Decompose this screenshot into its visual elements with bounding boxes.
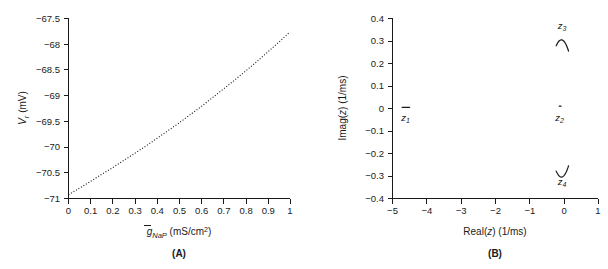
panel-a-y-ticklabel: −69 [44,90,60,101]
panel-b-y-ticklabel: 0 [379,103,384,114]
panel-b-x-ticklabel: −4 [421,205,432,216]
xb-title-prefix: Real( [463,226,488,237]
yb-title-prefix: Imag( [337,114,348,140]
branch-label-subscript: 1 [406,117,410,124]
eigenvalue-branch-z3 [556,40,568,51]
label-z3: z3 [557,20,567,33]
y-title-units: (mV) [17,91,28,113]
panel-b-x-ticklabels: −5 −4 −3 −2 −1 0 1 [387,205,601,216]
panel-a-x-ticks [69,199,291,204]
panel-b-y-ticklabel: 0.4 [371,13,384,24]
panel-a-y-ticklabel: −69.5 [36,116,60,127]
branch-label-subscript: 3 [562,25,566,32]
svg-text:Vr (mV): Vr (mV) [17,91,31,125]
panel-a-x-ticklabel: 0.9 [262,205,275,216]
panel-b-x-ticklabel: 1 [595,205,600,216]
panel-a-x-ticklabel: 0.6 [195,205,208,216]
panel-a-y-ticklabel: −68 [44,39,60,50]
panel-a-x-ticklabel: 0.3 [128,205,141,216]
xb-title-suffix: ) (1/ms) [492,226,526,237]
panel-a-x-ticklabel: 0.5 [173,205,186,216]
figure-container: −67.5 −68 −68.5 −69 −69.5 −70 −70.5 −71 [0,0,608,269]
panel-b-y-ticklabel: −0.2 [365,148,384,159]
panel-a-y-ticklabel: −68.5 [36,64,60,75]
panel-b-eigenvalue-loci [402,40,568,177]
panel-a-y-axis-title: Vr (mV) [17,91,31,125]
panel-b-y-ticklabel: −0.1 [365,125,384,136]
panel-a-y-ticklabel: −70 [44,141,60,152]
panel-b-y-ticklabel: −0.4 [365,193,384,204]
branch-label-subscript: 2 [559,117,564,124]
panel-a-x-ticklabel: 0.1 [84,205,97,216]
panel-b: 0.4 0.3 0.2 0.1 0 −0.1 −0.2 −0.3 −0.4 [304,0,608,269]
panel-b-x-ticklabel: −2 [490,205,501,216]
label-z4: z4 [557,176,567,189]
panel-b-y-ticks [388,19,393,199]
panel-b-y-ticklabels: 0.4 0.3 0.2 0.1 0 −0.1 −0.2 −0.3 −0.4 [365,13,384,204]
x-title-units: (mS/cm [170,226,204,237]
panel-b-x-ticklabel: −3 [456,205,467,216]
label-z2: z2 [554,112,564,125]
panel-b-x-ticklabel: 0 [562,205,567,216]
x-title-units-close: ) [208,226,211,237]
panel-a-x-ticklabel: 0.2 [106,205,119,216]
x-title-subscript: NaP [152,231,167,240]
panel-b-y-ticklabel: 0.3 [371,35,384,46]
panel-b-x-axis-title: Real(z) (1/ms) [463,226,526,237]
panel-a-x-ticklabels: 0 0.1 0.2 0.3 0.4 0.5 0.6 0.7 0.8 0.9 1 [66,205,293,216]
panel-a-y-ticklabel: −67.5 [36,13,60,24]
panel-b-x-ticks [393,199,599,204]
panel-b-x-ticklabel: −5 [387,205,398,216]
panel-b-branch-labels: z1 z2 z3 z4 [400,20,566,189]
label-z1: z1 [400,112,410,125]
panel-a-plot: −67.5 −68 −68.5 −69 −69.5 −70 −70.5 −71 [0,0,304,269]
panel-b-y-ticklabel: 0.1 [371,80,384,91]
svg-text:gNaP (mS/cm2): gNaP (mS/cm2) [147,226,212,240]
panel-b-y-axis-title: Imag(z) (1/ms) [337,75,348,140]
panel-b-x-ticklabel: −1 [524,205,535,216]
panel-a: −67.5 −68 −68.5 −69 −69.5 −70 −70.5 −71 [0,0,304,269]
panel-a-x-ticklabel: 0.8 [239,205,252,216]
panel-a-y-ticks [64,19,69,199]
panel-a-data-curve [69,32,291,195]
panel-b-caption: (B) [488,248,502,259]
panel-a-y-ticklabels: −67.5 −68 −68.5 −69 −69.5 −70 −70.5 −71 [36,13,60,204]
panel-a-caption: (A) [172,248,186,259]
panel-b-plot: 0.4 0.3 0.2 0.1 0 −0.1 −0.2 −0.3 −0.4 [304,0,608,269]
panel-a-x-ticklabel: 0.7 [217,205,230,216]
yb-title-suffix: ) (1/ms) [337,75,348,109]
panel-b-y-ticklabel: −0.3 [365,170,384,181]
panel-a-y-ticklabel: −70.5 [36,167,60,178]
panel-a-x-ticklabel: 1 [287,205,292,216]
panel-a-y-ticklabel: −71 [44,193,60,204]
panel-a-x-axis-title: gNaP (mS/cm2) [144,226,212,240]
branch-label-subscript: 4 [562,181,566,188]
panel-b-y-ticklabel: 0.2 [371,58,384,69]
panel-a-x-ticklabel: 0 [66,205,71,216]
panel-a-x-ticklabel: 0.4 [151,205,164,216]
